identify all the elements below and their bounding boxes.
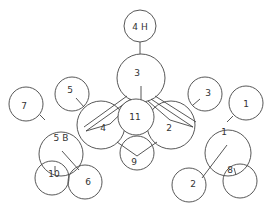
bond-3-2-a bbox=[155, 96, 196, 122]
atom-label: 11 bbox=[129, 112, 140, 122]
atom-label: 5 bbox=[67, 85, 73, 95]
atom-11: 11 bbox=[118, 99, 154, 135]
atom-6: 6 bbox=[68, 165, 102, 199]
atom-8: 8 bbox=[223, 164, 257, 198]
atom-label: 2 bbox=[190, 179, 196, 189]
atom-label: 7 bbox=[21, 101, 27, 111]
atom-5B: 5 B bbox=[39, 132, 83, 176]
diagram-canvas: 4 H 3 5 3 7 1 4 2 11 9 5 B 1 10 6 8 2 bbox=[0, 0, 274, 207]
bond-7-5B bbox=[40, 115, 45, 120]
atom-4: 4 bbox=[77, 101, 125, 149]
atoms: 4 H 3 5 3 7 1 4 2 11 9 5 B 1 10 6 8 2 bbox=[9, 10, 263, 202]
atom-label: 2 bbox=[166, 123, 172, 133]
atom-10: 10 bbox=[35, 161, 69, 195]
atom-label: 1 bbox=[243, 99, 249, 109]
bond-3-4-d bbox=[86, 124, 110, 131]
bond-1-2B bbox=[202, 145, 227, 178]
atom-label: 1 bbox=[221, 127, 227, 137]
bond-3R-2 bbox=[193, 99, 200, 105]
molecular-diagram: 4 H 3 5 3 7 1 4 2 11 9 5 B 1 10 6 8 2 bbox=[0, 0, 274, 207]
atom-3-right: 3 bbox=[188, 77, 222, 111]
atom-label: 4 bbox=[100, 123, 106, 133]
atom-2-bottom: 2 bbox=[172, 168, 206, 202]
atom-label: 4 H bbox=[132, 22, 147, 32]
atom-7: 7 bbox=[9, 87, 43, 121]
atom-label: 5 B bbox=[54, 133, 69, 143]
bond-1R-1 bbox=[227, 116, 233, 122]
atom-9: 9 bbox=[120, 136, 154, 170]
atom-label: 3 bbox=[134, 68, 140, 78]
bond-1-8 bbox=[234, 168, 236, 175]
bond-3-2-b bbox=[151, 99, 193, 127]
atom-label: 8 bbox=[227, 165, 233, 175]
atom-label: 10 bbox=[48, 169, 60, 179]
atom-1-right: 1 bbox=[229, 86, 263, 120]
atom-label: 6 bbox=[85, 177, 91, 187]
atom-5: 5 bbox=[55, 77, 89, 111]
atom-label: 9 bbox=[131, 157, 137, 167]
atom-label: 3 bbox=[205, 88, 211, 98]
atom-4H: 4 H bbox=[124, 10, 156, 42]
bond-5-4 bbox=[76, 98, 84, 107]
bond-3-2-d bbox=[170, 120, 193, 127]
